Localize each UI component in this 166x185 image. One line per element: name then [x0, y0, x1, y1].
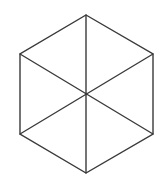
center-point: [85, 93, 87, 95]
hexagon-diagram: [0, 0, 166, 185]
